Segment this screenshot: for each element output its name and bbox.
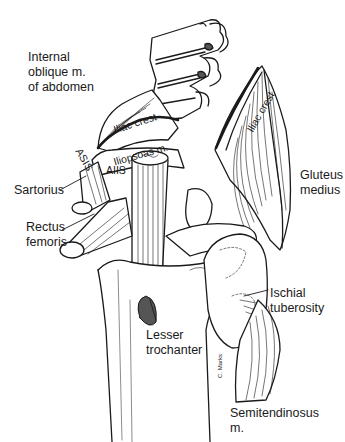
label-internal-oblique: Internal oblique m. of abdomen bbox=[28, 50, 94, 95]
anatomy-figure: Internal oblique m. of abdomen Iliac cre… bbox=[0, 0, 345, 442]
label-rectus-femoris: Rectus femoris bbox=[26, 220, 67, 250]
label-ischial-tuberosity: Ischial tuberosity bbox=[270, 286, 324, 316]
right-ilium bbox=[215, 66, 291, 250]
label-sartorius: Sartorius bbox=[14, 183, 64, 198]
label-lesser-trochanter: Lesser trochanter bbox=[146, 328, 202, 358]
label-gluteus-medius: Gluteus medius bbox=[300, 168, 343, 198]
artist-signature: C. Marks bbox=[214, 354, 226, 378]
label-semitendinosus: Semitendinosus m. bbox=[230, 406, 319, 436]
